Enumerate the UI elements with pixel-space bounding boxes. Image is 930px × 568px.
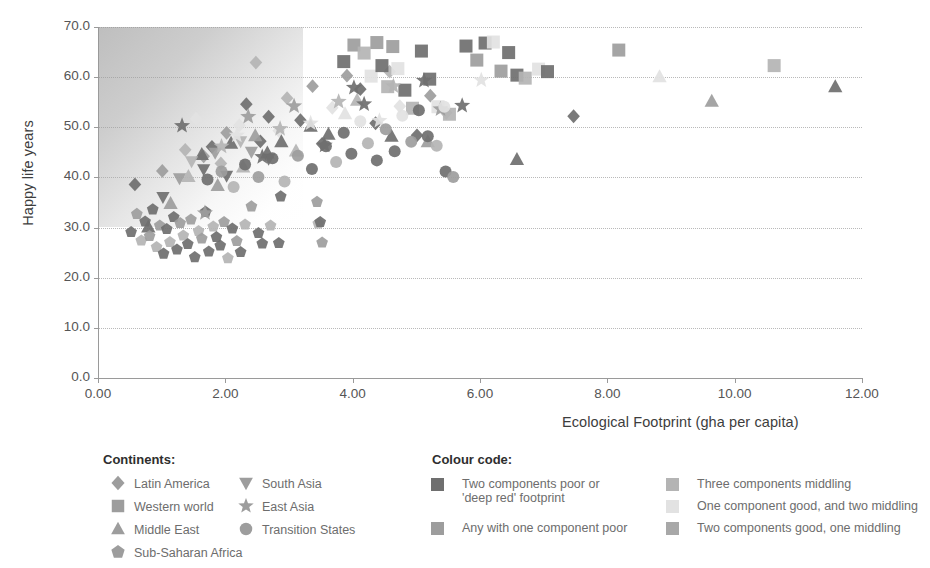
data-point [164, 236, 176, 247]
data-point [279, 175, 291, 187]
data-point [541, 65, 554, 78]
data-point [275, 190, 287, 201]
legend-colour-item[interactable]: Three components middling [697, 477, 851, 491]
x-tickmark [862, 378, 863, 383]
data-point [459, 40, 472, 53]
legend-colour-item[interactable]: Two components poor or'deep red' footpri… [462, 477, 600, 505]
legend-marker-diamond-icon [110, 475, 126, 491]
data-point [473, 72, 489, 87]
data-point [320, 140, 332, 152]
data-point [380, 123, 392, 135]
legend-label[interactable]: East Asia [262, 500, 314, 514]
data-point [362, 137, 374, 149]
x-tickmark [735, 378, 736, 383]
data-point [502, 46, 515, 59]
data-point [354, 115, 366, 127]
data-point [321, 127, 335, 140]
x-tickmark [225, 378, 226, 383]
y-tickmark [94, 77, 99, 78]
data-point [156, 164, 169, 178]
data-point [240, 108, 256, 123]
data-point [358, 47, 371, 60]
data-point [371, 154, 383, 166]
legend-colour-heading: Colour code: [432, 452, 512, 467]
data-point [185, 156, 198, 168]
x-tick-label: 8.00 [577, 386, 637, 401]
data-point [216, 165, 228, 177]
data-point [487, 36, 500, 49]
y-tickmark [94, 328, 99, 329]
y-axis-title: Happy life years [20, 93, 36, 253]
x-tick-label: 4.00 [323, 386, 383, 401]
data-point [470, 54, 483, 67]
data-point [294, 113, 307, 127]
data-point [250, 56, 263, 70]
data-point [218, 216, 230, 227]
legend-label[interactable]: Latin America [134, 477, 210, 491]
data-point [265, 219, 277, 230]
data-point [311, 196, 323, 207]
legend-label[interactable]: Sub-Saharan Africa [134, 546, 242, 560]
x-tick-label: 12.00 [832, 386, 892, 401]
legend-colour-item[interactable]: Two components good, one middling [697, 521, 901, 535]
data-point [370, 36, 383, 49]
legend-marker-triangle-down-icon [238, 475, 254, 491]
data-point [314, 216, 326, 227]
data-point [239, 218, 251, 229]
data-point [129, 178, 142, 192]
data-point [273, 237, 285, 248]
y-tickmark [94, 127, 99, 128]
data-point [338, 106, 352, 119]
data-point [828, 79, 842, 92]
data-point [306, 79, 319, 93]
legend-colour-label: Two components poor or [462, 477, 600, 491]
legend-label[interactable]: Transition States [262, 523, 355, 537]
series-sub-saharan-africa [125, 190, 328, 263]
legend-marker-pentagon-icon [110, 544, 126, 560]
legend-colour-item[interactable]: Any with one component poor [462, 521, 627, 535]
x-tick-label: 0.00 [68, 386, 128, 401]
data-point [705, 94, 719, 107]
data-point [235, 246, 247, 257]
plot-area [98, 27, 862, 378]
data-point [274, 134, 288, 147]
legend-colour-label: Any with one component poor [462, 521, 627, 535]
y-tick-label: 40.0 [44, 168, 90, 183]
data-point [422, 130, 434, 142]
legend-label[interactable]: Western world [134, 500, 214, 514]
data-point [185, 213, 197, 224]
legend-colour-label: Two components good, one middling [697, 521, 901, 535]
x-axis-title: Ecological Footprint (gha per capita) [562, 414, 799, 430]
data-point [398, 84, 411, 97]
y-tick-label: 10.0 [44, 319, 90, 334]
legend-label[interactable]: South Asia [262, 477, 322, 491]
legend-colour-item[interactable]: One component good, and two middling [697, 499, 918, 513]
legend-colour-label-line2: 'deep red' footprint [462, 491, 600, 505]
data-point [256, 237, 268, 248]
legend-marker-square-icon [110, 498, 126, 514]
legend-colour-swatch [666, 500, 679, 513]
y-tick-label: 50.0 [44, 118, 90, 133]
data-point [345, 148, 357, 160]
data-point [131, 208, 143, 219]
data-points-layer [98, 27, 862, 378]
legend-label[interactable]: Middle East [134, 523, 199, 537]
data-point [189, 251, 201, 262]
x-tickmark [480, 378, 481, 383]
legend-colour-swatch [666, 478, 679, 491]
data-point [386, 40, 399, 53]
data-point [266, 152, 278, 164]
data-point [233, 118, 246, 132]
data-point [202, 173, 214, 185]
x-tick-label: 10.00 [705, 386, 765, 401]
y-tick-label: 20.0 [44, 269, 90, 284]
data-point [207, 220, 219, 231]
data-point [197, 205, 213, 220]
data-point [495, 65, 508, 78]
data-point [415, 45, 428, 58]
legend-colour-swatch [666, 522, 679, 535]
data-point [768, 59, 781, 72]
legend-marker-triangle-up-icon [110, 521, 126, 537]
legend-continents-heading: Continents: [103, 452, 175, 467]
y-tick-label: 60.0 [44, 68, 90, 83]
